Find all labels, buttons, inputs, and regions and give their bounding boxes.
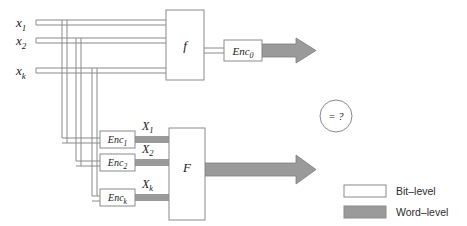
encoder-enc2[interactable]: Enc2 — [100, 154, 135, 171]
word-level-arrow-bottom — [205, 155, 316, 184]
diagram-canvas: x1 x2 xk f Enc0 Enc1 — [0, 0, 467, 226]
label-xk: xk — [15, 63, 27, 81]
label-Xk: Xk — [141, 177, 153, 193]
legend-word-level-label: Word–level — [396, 206, 448, 218]
output-arrow-word-path — [205, 155, 316, 184]
bus-Xk — [135, 194, 169, 201]
word-input-labels: X1 X2 Xk — [141, 119, 154, 193]
word-level-arrow-top — [262, 38, 316, 63]
function-f-box[interactable]: f — [166, 10, 204, 80]
legend: Bit–level Word–level — [344, 185, 448, 218]
legend-bit-level-label: Bit–level — [396, 185, 436, 197]
bus-X2 — [135, 159, 169, 166]
encoder-enc0[interactable]: Enc0 — [224, 40, 262, 61]
diagram-svg: x1 x2 xk f Enc0 Enc1 — [0, 0, 467, 226]
label-X2: X2 — [141, 142, 154, 158]
label-x2: x2 — [15, 33, 27, 51]
function-F-box[interactable]: F — [169, 128, 205, 220]
equivalence-check-label: = ? — [329, 111, 345, 122]
function-F-label: F — [182, 160, 192, 175]
encoder-enc1[interactable]: Enc1 — [100, 131, 135, 148]
label-X1: X1 — [141, 119, 154, 135]
output-arrow-bit-path — [262, 38, 316, 63]
legend-bit-level: Bit–level — [344, 185, 436, 197]
label-x1: x1 — [15, 15, 26, 33]
encoder-enck[interactable]: Enck — [100, 189, 135, 206]
input-labels: x1 x2 xk — [15, 15, 27, 81]
legend-word-level-swatch — [344, 206, 386, 218]
legend-word-level: Word–level — [344, 206, 448, 218]
legend-bit-level-swatch — [344, 185, 386, 197]
bus-X1 — [135, 136, 169, 143]
equivalence-check[interactable]: = ? — [320, 100, 352, 132]
